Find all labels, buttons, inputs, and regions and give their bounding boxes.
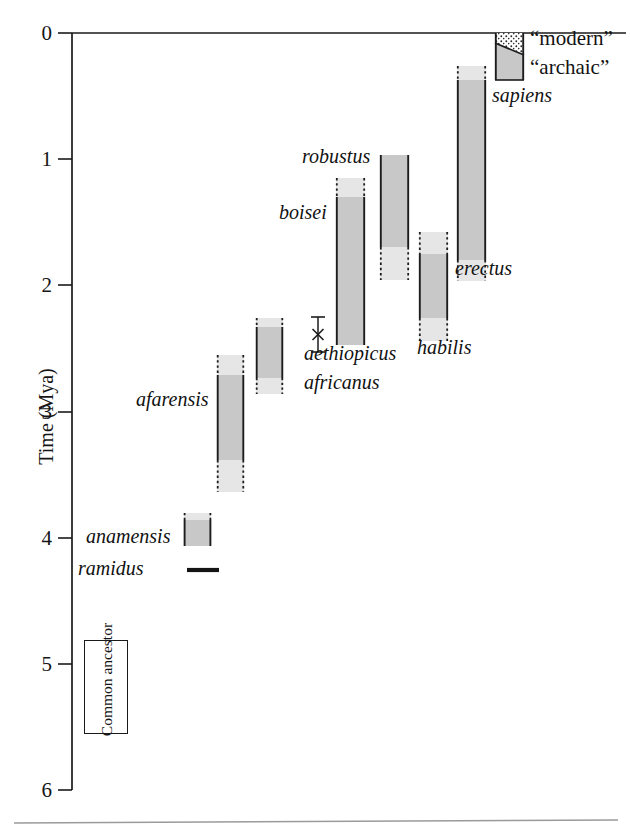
common-ancestor-box: Common ancestor	[84, 640, 128, 734]
sapiens-archaic-label: “archaic”	[530, 57, 609, 78]
footer-rule	[14, 820, 618, 823]
axis-tick-label-5: 5	[26, 654, 52, 675]
taxon-label-afarensis: afarensis	[136, 389, 209, 409]
taxon-label-africanus: africanus	[304, 372, 380, 392]
axis-tick-label-4: 4	[26, 528, 52, 549]
axis-tick-label-0: 0	[26, 23, 52, 44]
taxon-bar-habilis	[419, 232, 448, 341]
taxon-bar-afarensis	[217, 355, 244, 492]
axis-tick-label-6: 6	[26, 780, 52, 801]
sapiens-modern-label: “modern”	[530, 28, 613, 49]
taxon-label-erectus: erectus	[455, 258, 512, 278]
taxon-bar-anamensis	[184, 513, 211, 546]
taxon-bar-erectus	[457, 66, 486, 281]
taxon-label-anamensis: anamensis	[86, 526, 170, 546]
taxon-label-boisei: boisei	[279, 202, 327, 222]
taxon-bar-boisei	[336, 178, 365, 345]
common-ancestor-label: Common ancestor	[98, 642, 116, 736]
axis-tick-label-2: 2	[26, 275, 52, 296]
axis-tick-label-1: 1	[26, 149, 52, 170]
hominin-timeline-figure: 0 1 2 3 4 5 6 Time (Mya) ramidus anamens…	[0, 0, 630, 833]
taxon-bar-sapiens	[495, 33, 524, 80]
taxon-label-robustus: robustus	[302, 146, 370, 166]
taxon-bar-robustus	[380, 155, 409, 280]
taxon-label-aethiopicus: aethiopicus	[304, 343, 396, 363]
taxon-label-sapiens: sapiens	[492, 85, 552, 105]
taxon-label-ramidus: ramidus	[78, 558, 144, 578]
taxon-label-habilis: habilis	[417, 337, 471, 357]
taxon-bar-africanus	[256, 318, 283, 394]
y-axis-label: Time (Mya)	[35, 337, 58, 497]
